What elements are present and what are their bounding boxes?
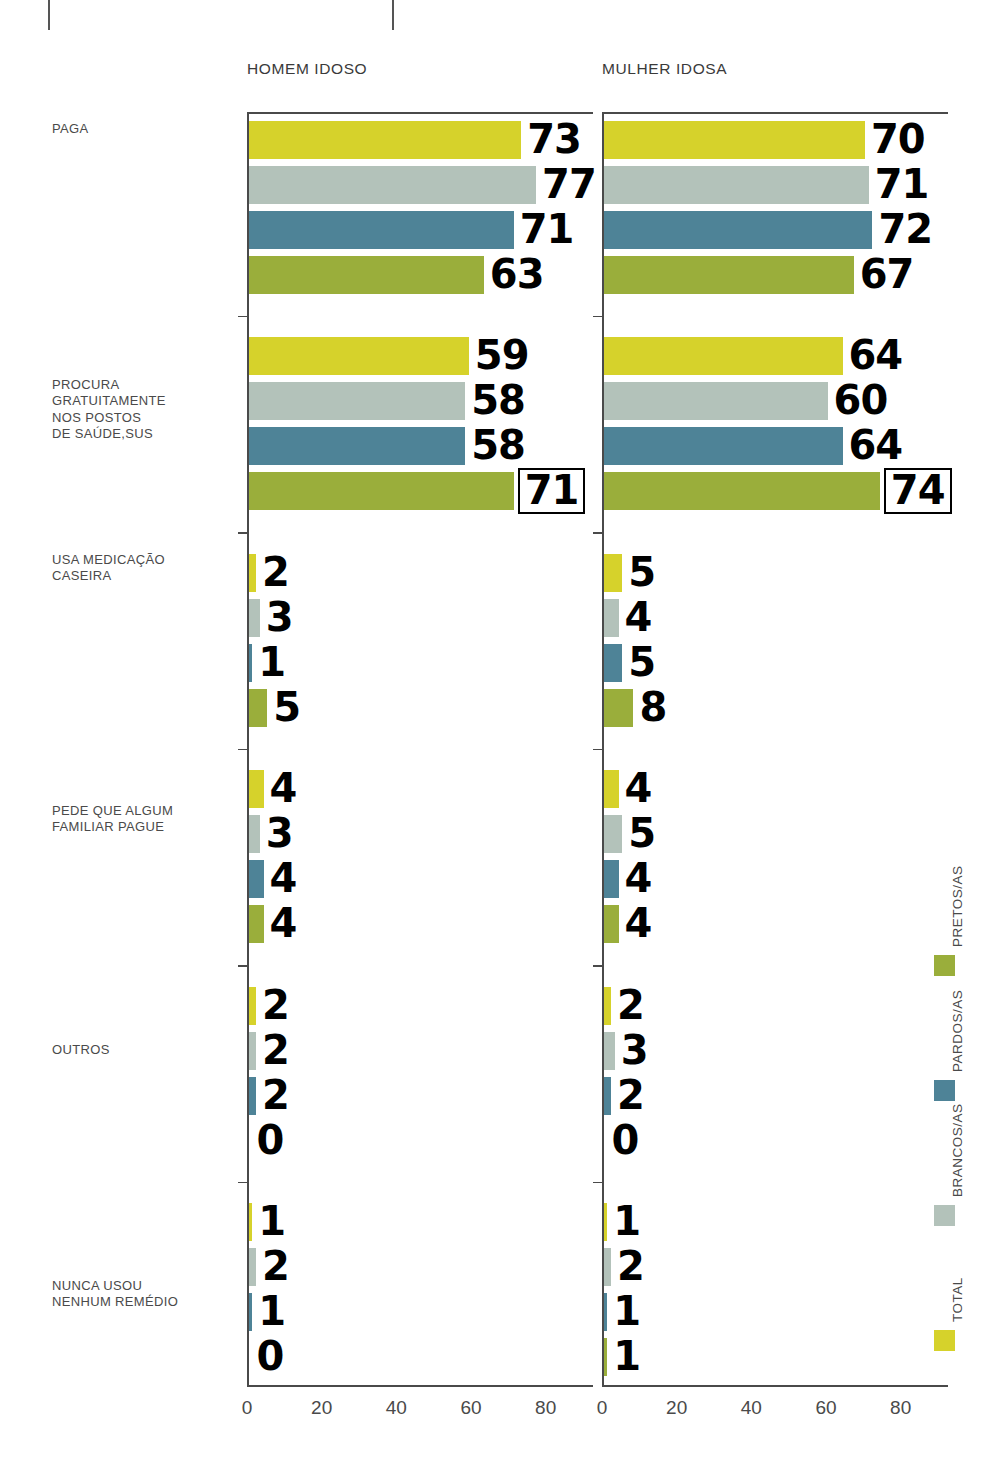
plot-area-homem [247, 112, 593, 1385]
axis-y-tick-5 [238, 1182, 247, 1184]
bar-value-homem-g1-pretos: 63 [490, 254, 544, 294]
axis-y-tick-1 [238, 316, 247, 318]
bar-value-homem-g3-pretos: 5 [273, 687, 300, 727]
bar-value-mulher-g4-brancos: 5 [628, 813, 655, 853]
bar-value-homem-g2-pretos: 71 [518, 468, 586, 514]
bar-mulher-g2-pretos [604, 472, 880, 510]
axis-y-tick-2 [238, 532, 247, 534]
bar-value-homem-g6-total: 1 [258, 1201, 285, 1241]
crop-mark-2 [392, 0, 394, 30]
bar-mulher-g3-pardos [604, 644, 623, 682]
bar-value-homem-g5-pretos: 0 [257, 1120, 284, 1160]
bar-value-mulher-g2-pardos: 64 [849, 425, 903, 465]
bar-homem-g4-total [249, 770, 264, 808]
bar-value-mulher-g6-pretos: 1 [613, 1336, 640, 1376]
category-label-3: USA MEDICAÇÃO CASEIRA [52, 552, 237, 585]
axis-y-tick-5 [593, 1182, 602, 1184]
panel-title-mulher: MULHER IDOSA [602, 60, 727, 78]
category-label-4: PEDE QUE ALGUM FAMILIAR PAGUE [52, 803, 237, 836]
axis-y-line [247, 112, 249, 1385]
x-tick-label-mulher-0: 0 [597, 1397, 608, 1419]
bar-mulher-g1-pretos [604, 256, 854, 294]
legend-label-pretos-as: PRETOS/AS [950, 865, 965, 947]
bar-homem-g6-pardos [249, 1293, 253, 1331]
x-tick-label-mulher-80: 80 [890, 1397, 911, 1419]
bar-homem-g5-total [249, 987, 256, 1025]
x-tick-label-homem-20: 20 [311, 1397, 332, 1419]
bar-value-mulher-g5-pardos: 2 [617, 1075, 644, 1115]
bar-homem-g1-brancos [249, 166, 536, 204]
bar-homem-g5-pardos [249, 1077, 256, 1115]
bar-value-mulher-g3-brancos: 4 [625, 597, 652, 637]
bar-value-homem-g3-brancos: 3 [266, 597, 293, 637]
bar-value-mulher-g6-total: 1 [613, 1201, 640, 1241]
bar-homem-g3-brancos [249, 599, 260, 637]
axis-y-tick-3 [593, 749, 602, 751]
bar-mulher-g4-brancos [604, 815, 623, 853]
axis-bottom-line [247, 1385, 593, 1387]
legend-label-brancos-as: BRANCOS/AS [950, 1103, 965, 1197]
bar-value-homem-g4-brancos: 3 [266, 813, 293, 853]
bar-mulher-g6-pardos [604, 1293, 608, 1331]
x-tick-label-mulher-60: 60 [815, 1397, 836, 1419]
bar-value-homem-g5-pardos: 2 [262, 1075, 289, 1115]
x-tick-label-mulher-20: 20 [666, 1397, 687, 1419]
legend-swatch-total [934, 1330, 955, 1351]
bar-homem-g1-total [249, 121, 522, 159]
bar-mulher-g5-pardos [604, 1077, 611, 1115]
bar-mulher-g6-brancos [604, 1248, 611, 1286]
legend-swatch-pardos-as [934, 1080, 955, 1101]
category-label-5: OUTROS [52, 1042, 237, 1059]
bar-value-mulher-g3-pardos: 5 [628, 642, 655, 682]
x-tick-label-homem-60: 60 [460, 1397, 481, 1419]
bar-homem-g3-pardos [249, 644, 253, 682]
bar-mulher-g1-brancos [604, 166, 869, 204]
bar-value-homem-g6-brancos: 2 [262, 1246, 289, 1286]
bar-value-mulher-g1-pretos: 67 [860, 254, 914, 294]
bar-mulher-g6-total [604, 1203, 608, 1241]
bar-value-homem-g3-total: 2 [262, 552, 289, 592]
legend-swatch-pretos-as [934, 955, 955, 976]
bar-homem-g4-brancos [249, 815, 260, 853]
bar-mulher-g1-pardos [604, 211, 873, 249]
x-tick-label-homem-40: 40 [386, 1397, 407, 1419]
bar-value-homem-g4-total: 4 [270, 768, 297, 808]
bar-homem-g3-pretos [249, 689, 268, 727]
axis-y-tick-4 [238, 965, 247, 967]
bar-mulher-g4-pardos [604, 860, 619, 898]
bar-value-homem-g5-total: 2 [262, 985, 289, 1025]
bar-mulher-g2-pardos [604, 427, 843, 465]
bar-mulher-g3-pretos [604, 689, 634, 727]
bar-mulher-g5-total [604, 987, 611, 1025]
bar-value-mulher-g6-pardos: 1 [613, 1291, 640, 1331]
bar-homem-g1-pardos [249, 211, 514, 249]
legend-label-total: TOTAL [950, 1277, 965, 1322]
bar-homem-g3-total [249, 554, 256, 592]
bar-value-mulher-g1-pardos: 72 [878, 209, 932, 249]
bar-mulher-g6-pretos [604, 1338, 608, 1376]
axis-y-tick-1 [593, 316, 602, 318]
bar-mulher-g4-total [604, 770, 619, 808]
bar-value-mulher-g4-total: 4 [625, 768, 652, 808]
bar-mulher-g2-brancos [604, 382, 828, 420]
bar-value-homem-g5-brancos: 2 [262, 1030, 289, 1070]
bar-mulher-g4-pretos [604, 905, 619, 943]
bar-homem-g2-pardos [249, 427, 466, 465]
category-label-6: NUNCA USOU NENHUM REMÉDIO [52, 1278, 237, 1311]
bar-mulher-g5-brancos [604, 1032, 615, 1070]
bar-mulher-g2-total [604, 337, 843, 375]
x-tick-label-homem-0: 0 [242, 1397, 253, 1419]
bar-value-mulher-g4-pardos: 4 [625, 858, 652, 898]
category-label-1: PAGA [52, 121, 237, 138]
bar-value-homem-g1-total: 73 [527, 119, 581, 159]
bar-value-homem-g6-pardos: 1 [258, 1291, 285, 1331]
bar-homem-g2-brancos [249, 382, 466, 420]
bar-homem-g5-brancos [249, 1032, 256, 1070]
bar-value-homem-g2-total: 59 [475, 335, 529, 375]
bar-homem-g6-brancos [249, 1248, 256, 1286]
category-label-2: PROCURA GRATUITAMENTE NOS POSTOS DE SAÚD… [52, 377, 237, 443]
bar-value-mulher-g1-brancos: 71 [875, 164, 929, 204]
x-tick-label-mulher-40: 40 [741, 1397, 762, 1419]
bar-value-mulher-g4-pretos: 4 [625, 903, 652, 943]
bar-value-mulher-g3-total: 5 [628, 552, 655, 592]
